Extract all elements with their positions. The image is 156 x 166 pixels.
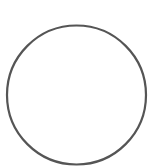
circle-outline <box>7 26 146 165</box>
circle-shape-svg <box>0 0 156 166</box>
canvas <box>0 0 156 166</box>
